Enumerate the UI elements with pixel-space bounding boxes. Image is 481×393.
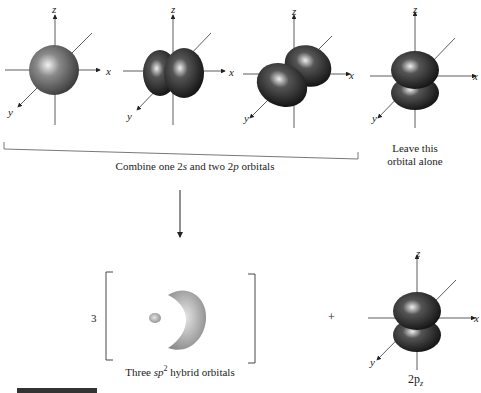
axis-label-z: z bbox=[416, 247, 420, 259]
axis-label-y: y bbox=[372, 112, 377, 124]
right-bracket bbox=[248, 274, 255, 363]
figure-label-bar bbox=[17, 388, 97, 393]
orbital-2pz-bottom bbox=[368, 255, 475, 370]
pz-label: 2pz bbox=[408, 372, 423, 388]
orbital-2py bbox=[243, 15, 350, 128]
combine-caption: Combine one 2s and two 2p orbitals bbox=[90, 160, 300, 172]
axis-label-x: x bbox=[473, 70, 478, 82]
orbital-diagram bbox=[0, 0, 481, 393]
axis-label-z: z bbox=[292, 5, 296, 17]
axis-label-z: z bbox=[52, 3, 56, 15]
axis-label-y: y bbox=[370, 356, 375, 368]
axis-label-x: x bbox=[349, 69, 354, 81]
axis-label-z: z bbox=[413, 3, 417, 15]
axis-label-y: y bbox=[127, 110, 132, 122]
left-bracket bbox=[106, 272, 113, 360]
leave-caption: Leave this orbital alone bbox=[375, 142, 455, 168]
axis-label-y: y bbox=[244, 112, 249, 124]
orbital-2s bbox=[5, 15, 100, 125]
axis-label-z: z bbox=[171, 3, 175, 15]
axis-label-x: x bbox=[229, 66, 234, 78]
multiplier: 3 bbox=[91, 312, 97, 324]
orbital-2pz-top bbox=[370, 12, 476, 128]
axis-label-x: x bbox=[106, 65, 111, 77]
hybrid-caption: Three sp2 hybrid orbitals bbox=[110, 364, 250, 378]
axis-label-y: y bbox=[8, 106, 13, 118]
sp2-hybrid-orbital bbox=[149, 291, 206, 350]
axis-label-x: x bbox=[474, 312, 479, 324]
orbital-2px bbox=[123, 15, 225, 125]
combine-bracket bbox=[4, 142, 358, 159]
plus-sign: + bbox=[328, 310, 335, 325]
